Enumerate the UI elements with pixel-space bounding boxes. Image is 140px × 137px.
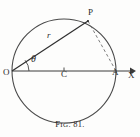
figure-container: P r θ O C A X FIG. 81.	[0, 0, 140, 137]
caption-number: . 81.	[68, 119, 84, 129]
axis-label-x: X	[128, 71, 135, 80]
point-label-a: A	[112, 68, 119, 77]
figure-caption: FIG. 81.	[0, 119, 140, 129]
point-p-dot	[87, 20, 89, 22]
angle-label-theta: θ	[31, 54, 36, 64]
radius-line-op	[12, 21, 88, 71]
point-label-p: P	[88, 8, 93, 17]
point-label-c: C	[61, 70, 67, 79]
chord-pa-dashed	[88, 21, 116, 71]
point-label-o: O	[3, 68, 10, 77]
geometry-diagram	[0, 0, 140, 137]
radius-label-r: r	[47, 31, 51, 40]
